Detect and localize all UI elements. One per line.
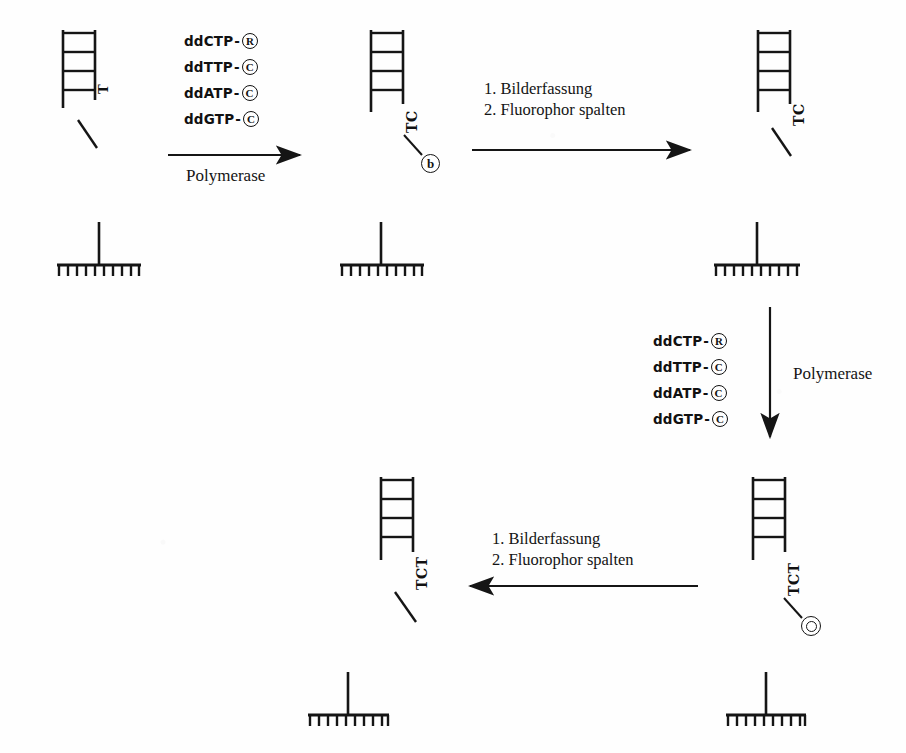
arrow-label-line-2: 2. Fluorophor spalten [484, 99, 626, 120]
reagent-name: ddCTP [184, 28, 233, 54]
fluorophore-link-4 [784, 598, 802, 618]
reagent-tag-circle: C [711, 385, 727, 401]
reagent-tag-circle: R [711, 333, 727, 349]
fluorophore-token-o [801, 616, 821, 636]
base-label-3: TC [791, 103, 807, 126]
base-label-5: TCT [414, 557, 430, 590]
base-label-2: TC [404, 110, 420, 133]
reagent-tag-circle: C [243, 111, 259, 127]
dna-tail-3 [772, 128, 791, 156]
arrow-label-imaging-bottom: 1. Bilderfassung 2. Fluorophor spalten [492, 528, 634, 570]
reagent-tag-circle: C [711, 359, 727, 375]
reagent-row: ddTTP - C [184, 54, 259, 80]
reagent-tag-circle: C [242, 59, 258, 75]
arrow-label-polymerase-top: Polymerase [186, 165, 265, 186]
reagent-dash: - [234, 106, 242, 132]
diagram-vector-layer [0, 0, 906, 753]
reagent-list-top: ddCTP - R ddTTP - C ddATP - C ddGTP - C [184, 28, 259, 132]
fluorophore-token-r: b [421, 154, 440, 173]
dna-ladder-2 [371, 30, 403, 112]
reagent-name: ddATP [184, 80, 233, 106]
fluorophore-link-2 [404, 135, 422, 155]
reagent-dash: - [703, 406, 711, 432]
comb-1 [57, 222, 141, 276]
reagent-list-right: ddCTP - R ddTTP - C ddATP - C ddGTP - C [653, 328, 728, 432]
comb-3 [714, 222, 800, 276]
dna-tail-5 [395, 592, 416, 622]
reagent-name: ddTTP [184, 54, 233, 80]
reagent-name: ddGTP [653, 406, 703, 432]
reagent-name: ddATP [653, 380, 702, 406]
comb-2 [340, 222, 424, 276]
arrow-label-line-2: 2. Fluorophor spalten [492, 549, 634, 570]
reagent-row: ddGTP - C [653, 406, 728, 432]
dna-tail-1 [78, 120, 97, 148]
arrow-label-imaging-top: 1. Bilderfassung 2. Fluorophor spalten [484, 78, 626, 120]
reagent-dash: - [233, 28, 241, 54]
reagent-row: ddCTP - R [184, 28, 259, 54]
reagent-name: ddGTP [184, 106, 234, 132]
reagent-row: ddCTP - R [653, 328, 728, 354]
reagent-dash: - [702, 354, 710, 380]
reagent-dash: - [702, 328, 710, 354]
reagent-name: ddCTP [653, 328, 702, 354]
dna-ladder-1 [63, 30, 95, 108]
reagent-row: ddTTP - C [653, 354, 728, 380]
arrow-label-line-1: 1. Bilderfassung [484, 78, 626, 99]
reagent-tag-circle: R [242, 33, 258, 49]
comb-4 [308, 672, 389, 726]
dna-ladder-5 [381, 477, 413, 560]
reagent-tag-circle: C [242, 85, 258, 101]
reagent-tag-circle: C [712, 411, 728, 427]
fluorophore-inner-ring [806, 621, 817, 632]
reagent-row: ddGTP - C [184, 106, 259, 132]
reagent-row: ddATP - C [653, 380, 728, 406]
dna-ladder-3 [758, 30, 790, 112]
reagent-row: ddATP - C [184, 80, 259, 106]
reagent-dash: - [233, 80, 241, 106]
comb-5 [726, 672, 806, 726]
reagent-name: ddTTP [653, 354, 702, 380]
dna-ladder-4 [753, 477, 785, 560]
reagent-dash: - [233, 54, 241, 80]
reagent-dash: - [702, 380, 710, 406]
base-label-1: T [96, 84, 111, 94]
arrow-label-line-1: 1. Bilderfassung [492, 528, 634, 549]
arrow-label-polymerase-right: Polymerase [793, 363, 872, 384]
diagram-canvas: T TC TC TCT TCT b ddCTP - R ddTTP - C dd… [0, 0, 906, 753]
base-label-4: TCT [786, 563, 802, 596]
